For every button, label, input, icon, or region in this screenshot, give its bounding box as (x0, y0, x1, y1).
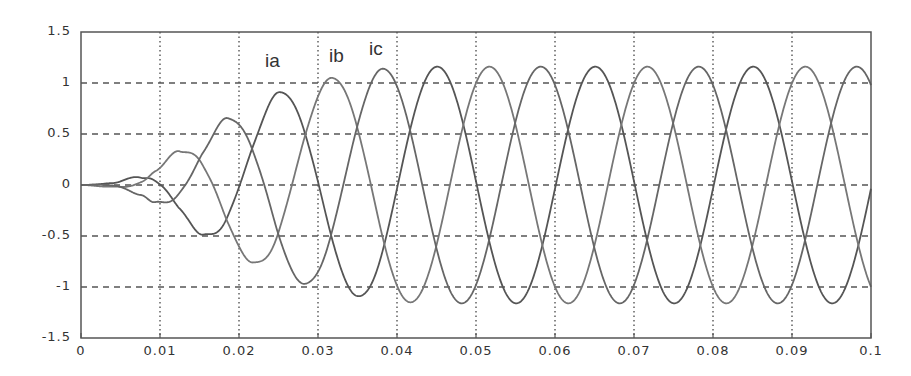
x-tick-label: 0.02 (209, 343, 269, 358)
y-tick-label: 0 (27, 176, 71, 191)
x-tick-label: 0.04 (367, 343, 427, 358)
y-tick-label: 0.5 (27, 125, 71, 140)
x-tick-label: 0.07 (604, 343, 664, 358)
x-tick-label: 0.1 (841, 343, 901, 358)
x-tick-label: 0 (51, 343, 111, 358)
y-tick-label: -1.5 (27, 329, 71, 344)
y-tick-label: -0.5 (27, 227, 71, 242)
curve-label-ia: ia (265, 50, 280, 72)
x-tick-label: 0.03 (288, 343, 348, 358)
x-tick-label: 0.09 (762, 343, 822, 358)
y-tick-label: 1.5 (27, 23, 71, 38)
curve-label-ib: ib (329, 45, 344, 67)
y-tick-label: -1 (27, 278, 71, 293)
chart-plot (0, 0, 911, 376)
y-tick-label: 1 (27, 74, 71, 89)
x-tick-label: 0.05 (446, 343, 506, 358)
x-tick-label: 0.06 (525, 343, 585, 358)
x-tick-label: 0.01 (130, 343, 190, 358)
curve-label-ic: ic (369, 38, 383, 60)
x-tick-label: 0.08 (683, 343, 743, 358)
